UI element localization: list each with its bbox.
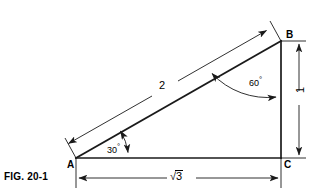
dimension-hypotenuse <box>65 21 281 158</box>
vertex-label-c: C <box>284 160 291 170</box>
dimension-label-hypotenuse: 2 <box>159 80 165 91</box>
vertex-label-b: B <box>286 30 293 40</box>
dimension-vertical <box>281 41 306 158</box>
figure-caption: FIG. 20-1 <box>4 172 48 182</box>
degree-symbol-a: ° <box>117 142 120 151</box>
figure-container: A B C 2 1 √3 30° 60° FIG. 20-1 <box>0 0 317 194</box>
extension-tick-hypotenuse-right <box>270 21 281 41</box>
dimension-label-vertical: 1 <box>295 87 306 93</box>
radical-group: √3 <box>170 170 183 182</box>
angle-arc-path-a <box>121 131 129 153</box>
triangle-diagram-canvas <box>0 0 317 194</box>
extension-tick-hypotenuse-left <box>65 138 76 158</box>
dimension-label-base: √3 <box>170 170 183 182</box>
radicand-value: 3 <box>175 170 183 182</box>
vertex-label-a: A <box>67 160 74 170</box>
angle-label-a: 30° <box>107 143 120 155</box>
triangle-outline <box>76 41 281 158</box>
triangle-side-hypotenuse <box>76 41 281 158</box>
dimension-line-hypotenuse-right-segment <box>178 31 267 82</box>
angle-arc-path-b <box>212 74 276 98</box>
angle-value-a: 30 <box>107 145 117 155</box>
angle-label-b: 60° <box>249 76 262 88</box>
angle-arc-a <box>121 131 129 153</box>
degree-symbol-b: ° <box>259 75 262 84</box>
dimension-line-hypotenuse-left-segment <box>69 96 153 144</box>
angle-value-b: 60 <box>249 78 259 88</box>
angle-arc-b <box>212 74 276 98</box>
